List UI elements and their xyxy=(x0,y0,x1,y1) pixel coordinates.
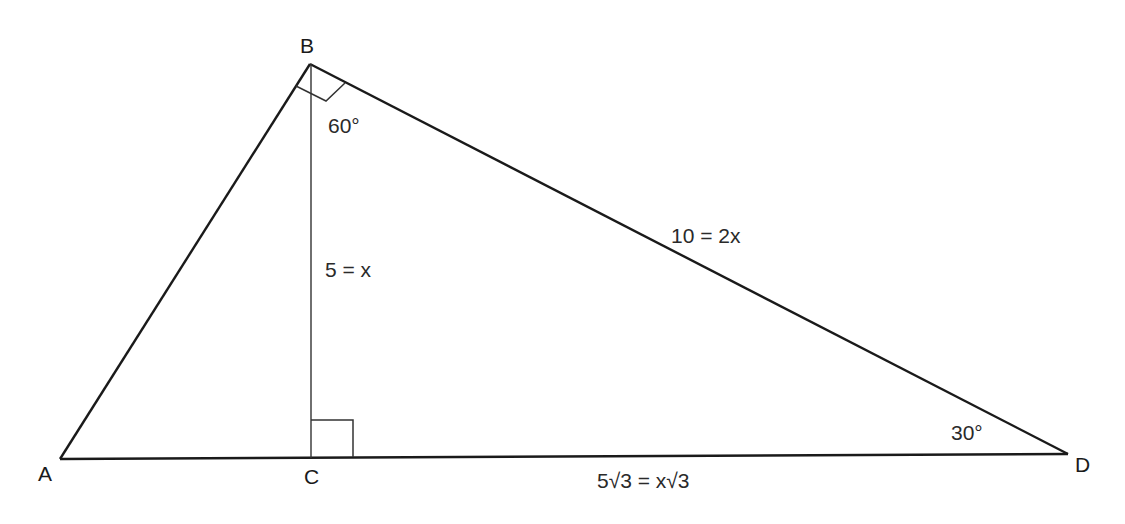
right-angle-marker-c xyxy=(311,420,353,457)
angle-label-d: 30° xyxy=(951,421,983,444)
side-ad xyxy=(60,454,1068,459)
side-bd xyxy=(310,64,1068,454)
vertex-label-b: B xyxy=(300,34,314,57)
side-label-cd: 5√3 = x√3 xyxy=(597,469,690,492)
right-angle-marker-b xyxy=(296,83,345,101)
side-label-bd: 10 = 2x xyxy=(671,224,741,247)
vertex-label-c: C xyxy=(304,465,319,488)
vertex-label-a: A xyxy=(38,462,52,485)
triangle-diagram: B A C D 60° 30° 5 = x 10 = 2x 5√3 = x√3 xyxy=(0,0,1125,524)
side-label-bc: 5 = x xyxy=(325,258,372,281)
side-ab xyxy=(60,64,310,459)
angle-label-b: 60° xyxy=(328,114,360,137)
vertex-label-d: D xyxy=(1075,453,1090,476)
